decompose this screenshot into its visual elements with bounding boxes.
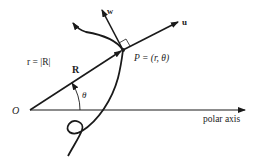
polar-axis-label: polar axis (203, 114, 241, 124)
unit-vector-w (102, 10, 123, 50)
angle-arc (72, 83, 80, 110)
vector-u-label: u (182, 17, 187, 27)
angle-theta-label: θ (82, 90, 87, 100)
unit-vector-u (123, 22, 178, 50)
vector-r-label: R (72, 64, 80, 75)
point-p (121, 48, 125, 52)
origin-label: O (12, 105, 19, 116)
polar-diagram: O r = |R| R P = (r, θ) θ u w polar axis (0, 0, 255, 166)
point-p-label: P = (r, θ) (133, 53, 169, 64)
radius-definition-label: r = |R| (27, 57, 51, 67)
vector-w-label: w (107, 6, 114, 16)
